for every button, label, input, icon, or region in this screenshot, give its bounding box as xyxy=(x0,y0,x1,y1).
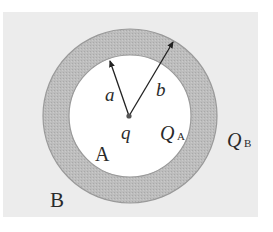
label-radius-b: b xyxy=(156,79,166,100)
label-center-charge-q: q xyxy=(121,122,131,143)
shell-diagram: a b q QA QB A B xyxy=(0,0,273,232)
center-charge-dot xyxy=(126,113,131,118)
label-radius-a: a xyxy=(105,84,115,105)
label-conductor-b: B xyxy=(50,188,64,212)
label-conductor-a: A xyxy=(95,143,110,165)
